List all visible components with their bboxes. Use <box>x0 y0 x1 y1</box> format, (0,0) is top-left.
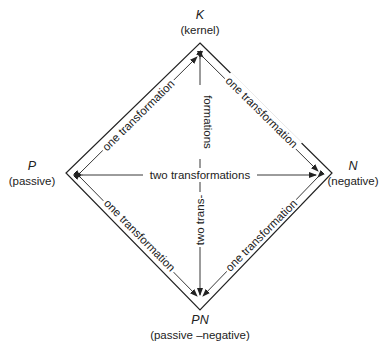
vertex-p-symbol: P <box>2 159 62 174</box>
vertex-p-name: (passive) <box>9 175 56 187</box>
label-horizontal: two transformations <box>150 169 251 181</box>
label-top-left: one transformation <box>100 77 177 153</box>
vertex-k-name: (kernel) <box>181 24 220 36</box>
label-bottom-right: one transformation <box>223 197 299 273</box>
vertex-k: K (kernel) <box>160 8 240 38</box>
vertex-p: P (passive) <box>2 159 62 189</box>
label-vertical-part2: formations <box>202 95 214 149</box>
vertex-n-symbol: N <box>323 159 381 174</box>
vertex-k-symbol: K <box>160 8 240 23</box>
vertex-pn-name: (passive –negative) <box>150 329 250 341</box>
vertex-pn-symbol: PN <box>130 313 270 328</box>
vertex-pn: PN (passive –negative) <box>130 313 270 343</box>
label-vertical-part1: two trans- <box>194 195 206 246</box>
vertex-n-name: (negative) <box>327 175 378 187</box>
label-top-right: one transformation <box>223 74 300 150</box>
label-bottom-left: one transformation <box>102 197 178 274</box>
vertex-n: N (negative) <box>323 159 381 189</box>
